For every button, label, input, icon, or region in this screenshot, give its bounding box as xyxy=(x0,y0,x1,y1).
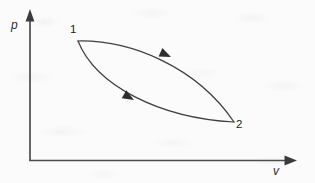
lower-process-path xyxy=(78,41,234,122)
upper-process-path xyxy=(78,41,234,122)
state-point-2-label: 2 xyxy=(236,119,242,131)
pressure-axis-label: p xyxy=(11,19,18,31)
pv-diagram-canvas xyxy=(0,0,315,183)
volume-axis-label: v xyxy=(273,165,279,177)
pv-diagram-figure: p v 1 2 xyxy=(0,0,315,183)
lower-path-direction-arrow-icon xyxy=(122,90,137,104)
arrow-right-icon xyxy=(285,156,298,166)
state-point-1-label: 1 xyxy=(70,24,76,36)
arrow-up-icon xyxy=(26,9,35,22)
